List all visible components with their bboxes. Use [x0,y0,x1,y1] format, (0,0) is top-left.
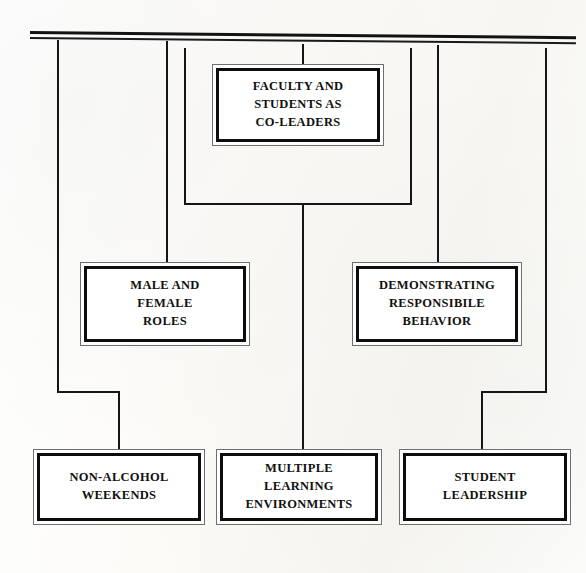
connector-student-leadership-drop [481,391,483,450]
node-label: NON-ALCOHOL WEEKENDS [63,469,174,505]
node-inner-border: NON-ALCOHOL WEEKENDS [37,453,201,521]
node-non-alcohol-weekends[interactable]: NON-ALCOHOL WEEKENDS [33,449,205,525]
connector-non-alcohol-drop [118,391,120,450]
connector-multiple-learning-drop [302,204,304,450]
node-inner-border: DEMONSTRATING RESPONSIBILE BEHAVIOR [356,266,518,342]
node-label: MULTIPLE LEARNING ENVIRONMENTS [239,460,358,513]
node-label: DEMONSTRATING RESPONSIBILE BEHAVIOR [373,277,501,330]
diagram-canvas: FACULTY AND STUDENTS AS CO-LEADERS MALE … [0,0,586,573]
connector-left-vertical [57,40,59,393]
node-inner-border: MALE AND FEMALE ROLES [84,266,246,342]
node-label: STUDENT LEADERSHIP [437,469,533,505]
connector-faculty-stub [302,44,304,66]
node-male-and-female-roles[interactable]: MALE AND FEMALE ROLES [80,262,250,346]
connector-left-elbow-horizontal [57,391,120,393]
node-label: MALE AND FEMALE ROLES [124,277,205,330]
node-multiple-learning-environments[interactable]: MULTIPLE LEARNING ENVIRONMENTS [216,449,382,525]
node-demonstrating-responsibile-behavior[interactable]: DEMONSTRATING RESPONSIBILE BEHAVIOR [352,262,522,346]
node-student-leadership[interactable]: STUDENT LEADERSHIP [399,449,571,525]
connector-right-vertical [545,48,547,393]
node-inner-border: STUDENT LEADERSHIP [403,453,567,521]
node-inner-border: FACULTY AND STUDENTS AS CO-LEADERS [216,68,380,142]
connector-right-elbow-horizontal [481,391,547,393]
connector-male-female-drop [166,41,168,263]
connector-demonstrating-drop [437,45,439,263]
node-faculty-and-students-as-co-leaders[interactable]: FACULTY AND STUDENTS AS CO-LEADERS [212,64,384,146]
node-inner-border: MULTIPLE LEARNING ENVIRONMENTS [220,453,378,521]
node-label: FACULTY AND STUDENTS AS CO-LEADERS [247,78,350,131]
